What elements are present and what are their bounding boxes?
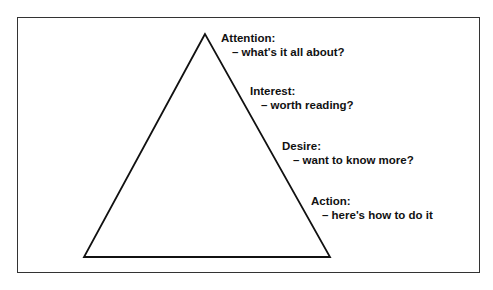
stage-description: – here's how to do it: [322, 208, 433, 222]
stage-title: Desire:: [282, 139, 414, 153]
stage-description: – what's it all about?: [232, 45, 345, 59]
stage-description: – want to know more?: [293, 153, 414, 167]
stage-title: Attention:: [221, 31, 345, 45]
stage-title: Action:: [311, 194, 433, 208]
stage-description: – worth reading?: [261, 98, 354, 112]
stage-action: Action: – here's how to do it: [311, 194, 433, 222]
stage-attention: Attention: – what's it all about?: [221, 31, 345, 59]
stage-desire: Desire: – want to know more?: [282, 139, 414, 167]
stage-title: Interest:: [250, 84, 354, 98]
stage-interest: Interest: – worth reading?: [250, 84, 354, 112]
